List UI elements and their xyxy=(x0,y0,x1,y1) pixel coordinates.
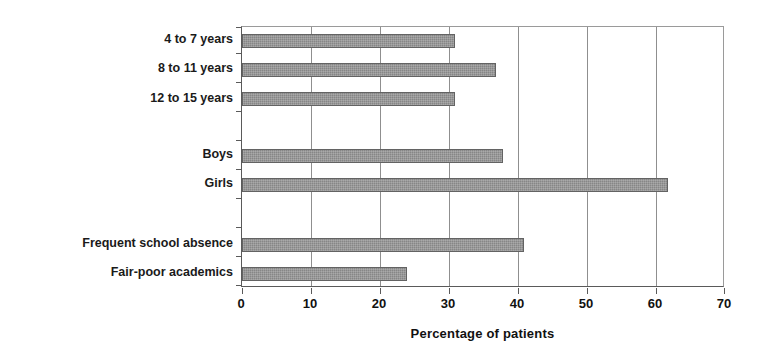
x-tick-60 xyxy=(656,288,657,294)
bar-9 xyxy=(242,267,407,281)
y-tick-0 xyxy=(236,27,242,28)
y-axis-label-8: Frequent school absence xyxy=(0,236,233,250)
x-tick-40 xyxy=(518,288,519,294)
bar-2 xyxy=(242,92,455,106)
bar-8 xyxy=(242,238,524,252)
y-axis-label-2: 12 to 15 years xyxy=(0,91,233,105)
x-tick-label-60: 60 xyxy=(635,296,675,311)
y-tick-1 xyxy=(236,53,242,54)
y-axis-label-9: Fair-poor academics xyxy=(0,265,233,279)
x-tick-label-40: 40 xyxy=(497,296,537,311)
y-tick-8 xyxy=(236,256,242,257)
bar-4 xyxy=(242,149,503,163)
x-tick-label-0: 0 xyxy=(221,296,261,311)
y-tick-7 xyxy=(236,227,242,228)
x-tick-50 xyxy=(587,288,588,294)
bar-1 xyxy=(242,63,496,77)
bar-5 xyxy=(242,178,668,192)
y-tick-4 xyxy=(236,140,242,141)
y-tick-2 xyxy=(236,82,242,83)
y-axis-label-1: 8 to 11 years xyxy=(0,61,233,75)
y-tick-3 xyxy=(236,111,242,112)
x-tick-label-70: 70 xyxy=(704,296,744,311)
x-axis-title: Percentage of patients xyxy=(241,326,724,341)
y-axis-label-4: Boys xyxy=(0,147,233,161)
y-tick-6 xyxy=(236,198,242,199)
x-tick-0 xyxy=(242,288,243,294)
x-tick-label-50: 50 xyxy=(566,296,606,311)
x-tick-label-10: 10 xyxy=(290,296,330,311)
x-tick-10 xyxy=(311,288,312,294)
bar-chart: 4 to 7 years 8 to 11 years 12 to 15 year… xyxy=(0,0,769,362)
y-axis-label-0: 4 to 7 years xyxy=(0,32,233,46)
x-tick-20 xyxy=(380,288,381,294)
x-tick-label-20: 20 xyxy=(359,296,399,311)
plot-area xyxy=(241,26,724,287)
x-tick-70 xyxy=(724,288,725,294)
y-tick-9 xyxy=(236,285,242,286)
gridline-50 xyxy=(587,27,588,286)
x-tick-label-30: 30 xyxy=(428,296,468,311)
bar-0 xyxy=(242,34,455,48)
y-axis-label-5: Girls xyxy=(0,176,233,190)
gridline-60 xyxy=(656,27,657,286)
y-tick-5 xyxy=(236,169,242,170)
x-tick-30 xyxy=(449,288,450,294)
